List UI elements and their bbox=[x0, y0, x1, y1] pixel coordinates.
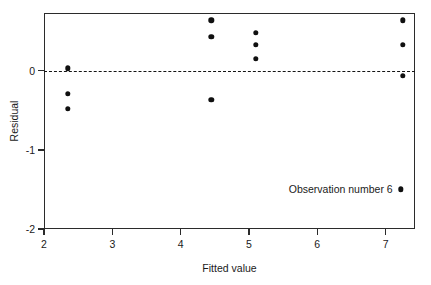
x-axis-title: Fitted value bbox=[202, 263, 256, 274]
y-tick-label: 0 bbox=[29, 66, 35, 77]
y-axis-title: Residual bbox=[9, 101, 20, 142]
x-tick-label: 5 bbox=[246, 239, 252, 250]
x-tick-label: 3 bbox=[109, 239, 115, 250]
x-tick-mark bbox=[43, 229, 44, 235]
x-tick-label: 4 bbox=[178, 239, 184, 250]
y-tick-mark bbox=[38, 70, 44, 71]
plot-area bbox=[44, 13, 415, 229]
x-tick-mark bbox=[317, 229, 318, 235]
x-tick-mark bbox=[180, 229, 181, 235]
zero-reference-line bbox=[44, 71, 415, 72]
y-tick-mark bbox=[38, 149, 44, 150]
x-tick-mark bbox=[112, 229, 113, 235]
y-tick-mark bbox=[38, 228, 44, 229]
x-tick-label: 7 bbox=[383, 239, 389, 250]
residual-scatter-chart: 234567 0-1-2 Observation number 6 Fitted… bbox=[0, 0, 431, 285]
x-tick-mark bbox=[385, 229, 386, 235]
y-tick-label: -1 bbox=[26, 145, 35, 156]
observation-annotation-label: Observation number 6 bbox=[289, 184, 393, 195]
x-tick-label: 2 bbox=[41, 239, 47, 250]
y-tick-label: -2 bbox=[26, 224, 35, 235]
x-tick-mark bbox=[248, 229, 249, 235]
x-tick-label: 6 bbox=[314, 239, 320, 250]
